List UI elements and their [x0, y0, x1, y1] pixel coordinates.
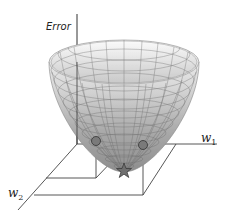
w2-axis-label: w2 — [8, 186, 23, 200]
circle-marker-icon — [139, 141, 148, 150]
w2-label-subscript: 2 — [18, 193, 23, 202]
circle-marker-icon — [92, 137, 101, 146]
w2-axis-line — [18, 144, 77, 210]
w1-axis-label: w1 — [201, 131, 216, 145]
w2-label-main: w — [8, 186, 18, 200]
error-axis-label: Error — [46, 21, 71, 32]
diagram-canvas — [0, 0, 227, 220]
error-bowl-surface — [49, 36, 199, 172]
w1-label-subscript: 1 — [211, 138, 216, 147]
w1-label-main: w — [201, 131, 211, 145]
error-surface-diagram: Error w1 w2 — [0, 0, 227, 220]
